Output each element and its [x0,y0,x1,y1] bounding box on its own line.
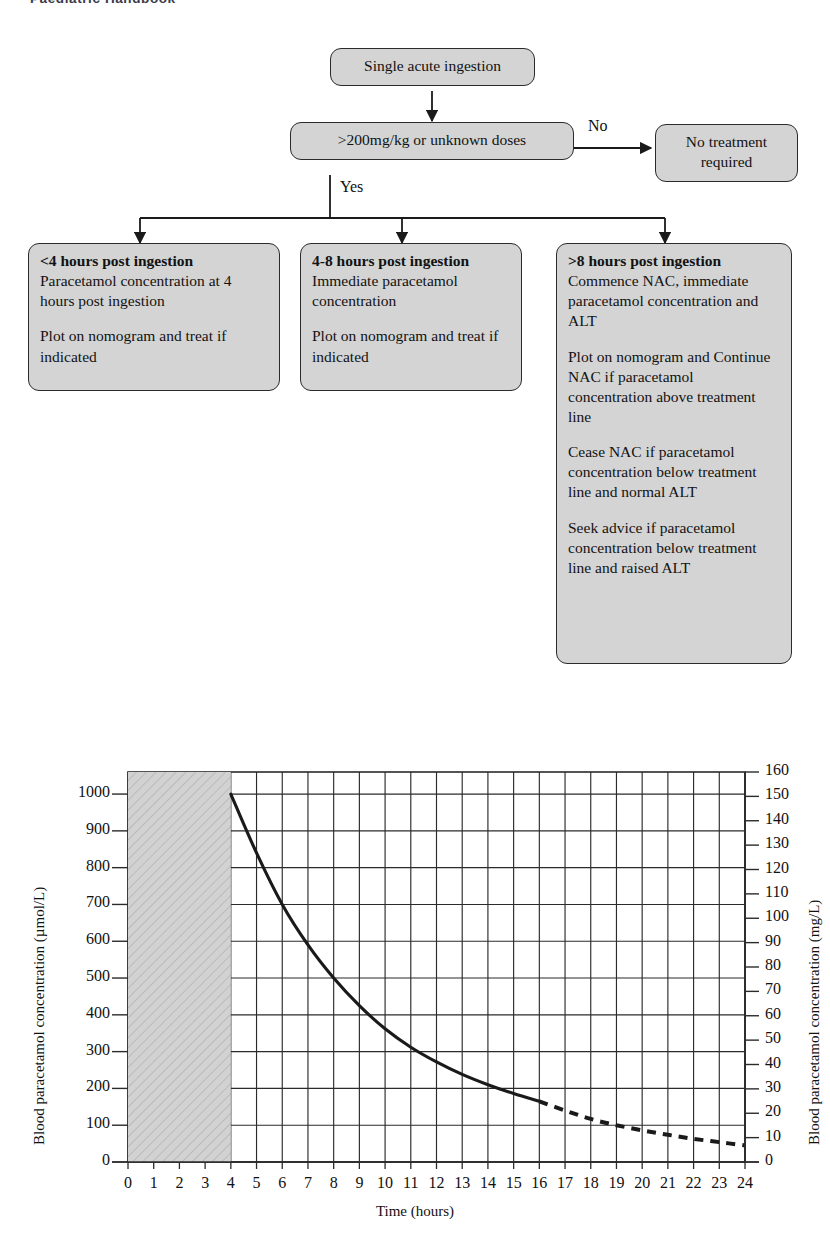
flow-node-over-8-hours-para3: Cease NAC if paracetamol concentration b… [568,442,780,502]
y-tick-right-120: 120 [765,859,811,877]
flow-node-four-to-eight-hours[interactable]: 4-8 hours post ingestion Immediate parac… [300,243,522,391]
x-tick-24: 24 [731,1174,759,1192]
y-tick-right-10: 10 [765,1127,811,1145]
flow-node-over-8-hours-para1: Commence NAC, immediate paracetamol conc… [568,271,780,331]
x-tick-0: 0 [114,1174,142,1192]
y-tick-right-100: 100 [765,907,811,925]
x-tick-6: 6 [268,1174,296,1192]
flow-node-dose-threshold[interactable]: >200mg/kg or unknown doses [290,122,574,160]
x-tick-7: 7 [294,1174,322,1192]
x-tick-5: 5 [243,1174,271,1192]
y-tick-right-150: 150 [765,785,811,803]
edge-label-no: No [588,117,608,135]
flow-node-under-4-hours-para1: Paracetamol concentration at 4 hours pos… [40,271,268,311]
flow-node-no-treatment-required[interactable]: No treatment required [655,124,798,182]
flow-node-dose-threshold-label: >200mg/kg or unknown doses [302,130,562,150]
y-tick-left-600: 600 [52,930,110,948]
flowchart: Single acute ingestion >200mg/kg or unkn… [0,0,830,700]
y-tick-left-100: 100 [52,1114,110,1132]
y-tick-left-0: 0 [52,1151,110,1169]
x-tick-11: 11 [397,1174,425,1192]
x-tick-1: 1 [140,1174,168,1192]
y-tick-left-1000: 1000 [52,783,110,801]
y-tick-right-40: 40 [765,1054,811,1072]
nomogram-svg [0,690,830,1236]
y-tick-right-90: 90 [765,932,811,950]
flow-node-single-acute-ingestion-label: Single acute ingestion [342,56,523,76]
flow-node-over-8-hours-para4: Seek advice if paracetamol concentration… [568,518,780,578]
x-tick-13: 13 [448,1174,476,1192]
flow-node-single-acute-ingestion[interactable]: Single acute ingestion [330,48,535,86]
y-tick-right-140: 140 [765,810,811,828]
edge-label-yes: Yes [340,178,363,196]
flow-node-over-8-hours[interactable]: >8 hours post ingestion Commence NAC, im… [556,243,792,664]
flow-node-no-treatment-line1: No treatment [667,132,786,152]
x-axis-title: Time (hours) [0,1203,830,1220]
flow-node-under-4-hours[interactable]: <4 hours post ingestion Paracetamol conc… [28,243,280,391]
flow-node-no-treatment-line2: required [667,152,786,172]
y-tick-left-800: 800 [52,857,110,875]
flow-node-under-4-hours-para2: Plot on nomogram and treat if indicated [40,326,268,366]
x-tick-10: 10 [371,1174,399,1192]
flow-node-four-to-eight-hours-para2: Plot on nomogram and treat if indicated [312,326,510,366]
flow-node-over-8-hours-heading: >8 hours post ingestion [568,251,780,271]
x-tick-9: 9 [345,1174,373,1192]
y-tick-right-70: 70 [765,980,811,998]
x-tick-14: 14 [474,1174,502,1192]
x-tick-4: 4 [217,1174,245,1192]
x-tick-8: 8 [320,1174,348,1192]
y-tick-right-20: 20 [765,1102,811,1120]
nomogram-inner: Blood paracetamol concentration (µmol/L)… [0,690,830,1236]
y-tick-left-900: 900 [52,820,110,838]
y-tick-right-110: 110 [765,883,811,901]
x-tick-17: 17 [551,1174,579,1192]
y-tick-left-500: 500 [52,967,110,985]
x-tick-22: 22 [680,1174,708,1192]
y-tick-left-300: 300 [52,1041,110,1059]
y-tick-right-60: 60 [765,1005,811,1023]
x-tick-18: 18 [577,1174,605,1192]
flow-node-four-to-eight-hours-heading: 4-8 hours post ingestion [312,251,510,271]
flow-node-over-8-hours-para2: Plot on nomogram and Continue NAC if par… [568,347,780,428]
paracetamol-nomogram: Blood paracetamol concentration (µmol/L)… [0,690,830,1236]
y-tick-right-30: 30 [765,1078,811,1096]
x-tick-2: 2 [165,1174,193,1192]
y-tick-left-700: 700 [52,893,110,911]
y-tick-left-400: 400 [52,1004,110,1022]
x-tick-23: 23 [705,1174,733,1192]
x-tick-16: 16 [525,1174,553,1192]
y-tick-right-160: 160 [765,761,811,779]
x-tick-19: 19 [602,1174,630,1192]
flow-node-under-4-hours-heading: <4 hours post ingestion [40,251,268,271]
y-tick-right-80: 80 [765,956,811,974]
y-tick-right-0: 0 [765,1151,811,1169]
flow-node-four-to-eight-hours-para1: Immediate paracetamol concentration [312,271,510,311]
y-axis-left-title: Blood paracetamol concentration (µmol/L) [31,887,48,1145]
y-tick-right-130: 130 [765,834,811,852]
x-tick-15: 15 [500,1174,528,1192]
y-tick-left-200: 200 [52,1077,110,1095]
x-tick-21: 21 [654,1174,682,1192]
x-tick-12: 12 [423,1174,451,1192]
y-tick-right-50: 50 [765,1029,811,1047]
x-tick-20: 20 [628,1174,656,1192]
x-tick-3: 3 [191,1174,219,1192]
